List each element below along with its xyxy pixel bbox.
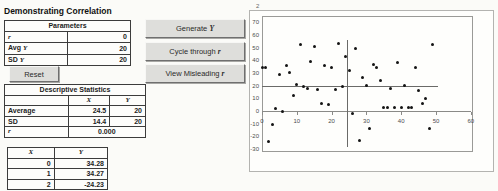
param-sd-y-label: SD Y [5,54,68,66]
demonstrating-correlation-sheet: Demonstrating Correlation Parameters r 0… [0,0,498,191]
desc-corner-cell [5,95,69,106]
desc-sd-x: 14.4 [68,116,110,127]
data-y-2: -24.23 [54,179,107,190]
data-x-0: 0 [8,158,55,169]
descriptive-statistics-table: Descriptive Statistics X Y Average 24.5 … [4,84,146,138]
desc-sd-y: 20 [110,116,146,127]
data-x-2: 2 [8,179,55,190]
param-r-label: r [5,31,68,43]
chart-corner-label: 2 [256,3,259,9]
data-col-y: Y [54,148,107,159]
desc-average-label: Average [5,106,69,117]
desc-average-y: 20 [110,106,146,117]
view-misleading-r-button[interactable]: View Misleading r [145,64,245,83]
parameters-header: Parameters [5,21,131,32]
param-avg-y-label: Avg Y [5,43,68,55]
scatter-plot-area [262,16,473,152]
data-y-1: 34.27 [54,169,107,180]
page-title: Demonstrating Correlation [4,6,112,16]
data-x-1: 1 [8,169,55,180]
desc-r-label: r [5,127,69,138]
param-r-value-cell[interactable]: 0 [68,31,131,43]
param-avg-y-value-cell[interactable]: 20 [68,43,131,55]
param-sd-y-value-cell[interactable]: 20 [68,54,131,66]
desc-col-x: X [68,95,110,106]
data-row: 0 34.28 [8,158,108,169]
data-row: 2 -24.23 [8,179,108,190]
reset-button[interactable]: Reset [9,66,59,82]
desc-r-value: 0.000 [68,127,145,138]
xy-data-table: X Y 0 34.28 1 34.27 2 -24.23 [7,147,108,190]
desc-sd-label: SD [5,116,69,127]
generate-y-button[interactable]: Generate Y [145,19,245,38]
descriptive-statistics-header: Descriptive Statistics [5,85,146,96]
desc-average-x: 24.5 [68,106,110,117]
cycle-through-r-button[interactable]: Cycle through r [145,42,245,61]
parameters-table: Parameters r 0 Avg Y 20 SD Y 20 [4,20,131,66]
desc-col-y: Y [110,95,146,106]
data-y-0: 34.28 [54,158,107,169]
data-col-x: X [8,148,55,159]
data-row: 1 34.27 [8,169,108,180]
